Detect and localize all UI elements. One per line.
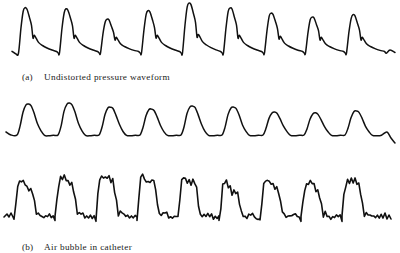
waveform-a-container [0,0,400,62]
waveform-b-path [6,103,395,143]
waveform-a-path [12,3,395,55]
caption-a-tag: (a) [22,72,44,82]
waveform-b-air-bubble-damped [0,90,400,146]
panel-catheter-whip: (c)Catheter whip distortion [0,168,400,253]
caption-a-text: Undistorted pressure waveform [44,72,170,82]
waveform-c-path [4,174,391,221]
panel-air-bubble: (b)Air bubble in catheter [0,90,400,168]
pressure-waveform-figure: (a)Undistorted pressure waveform (b)Air … [0,0,400,253]
waveform-c-container [0,168,400,228]
waveform-c-catheter-whip-distortion [0,168,400,228]
panel-undistorted: (a)Undistorted pressure waveform [0,0,400,90]
caption-a: (a)Undistorted pressure waveform [22,72,170,82]
waveform-b-container [0,90,400,146]
waveform-a-undistorted-pressure [0,0,400,62]
